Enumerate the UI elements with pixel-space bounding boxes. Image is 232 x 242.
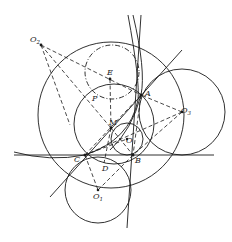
label-M: M [108,118,118,127]
dashed-O3-B [133,112,182,155]
label-O1: O1 [93,192,103,202]
dashed-O2-A [41,45,141,95]
point-E [109,78,112,81]
geometry-diagram: O2 E A P M O3 O C B D O1 [0,0,232,242]
diagram-canvas: O2 E A P M O3 O C B D O1 [0,0,232,242]
label-P: P [91,94,98,103]
label-O3: O3 [181,106,192,116]
label-E: E [106,68,113,77]
tangent-line-AB [127,15,141,228]
label-C: C [74,155,80,164]
label-D: D [101,164,109,173]
label-O: O [126,136,133,145]
label-B: B [134,156,141,165]
dashed-C-O1 [85,155,98,190]
point-A [139,93,142,96]
label-O2: O2 [30,35,41,45]
point-C [84,154,87,157]
point-M [110,127,113,130]
label-A: A [144,89,151,98]
dashed-C-O [85,139,127,155]
point-O1 [97,189,100,192]
